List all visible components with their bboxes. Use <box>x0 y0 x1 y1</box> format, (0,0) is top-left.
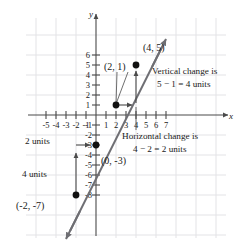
y-tick-label: 6 <box>86 50 90 60</box>
data-point <box>73 192 80 199</box>
x-tick-label: 1 <box>104 120 108 130</box>
x-tick-label: -4 <box>52 120 60 130</box>
y-tick-label: 5 <box>86 60 90 70</box>
x-axis-label: x <box>228 111 233 121</box>
point-label-minus2-minus7: (-2, -7) <box>16 200 44 212</box>
x-tick-label: -5 <box>42 120 49 130</box>
y-tick-label: 1 <box>86 100 90 110</box>
y-tick-label: 3 <box>86 80 90 90</box>
horizontal-change-note-line2: 4 − 2 = 2 units <box>133 144 187 154</box>
y-tick-label: -2 <box>85 130 92 140</box>
x-tick-label: 7 <box>164 120 168 130</box>
x-tick-label: 6 <box>154 120 158 130</box>
y-tick-label: -6 <box>85 170 92 180</box>
x-tick-label: -2 <box>72 120 79 130</box>
y-tick-label: -4 <box>85 150 93 160</box>
y-tick-labels: 1 2 3 4 5 6 -1 -2 -3 -4 -5 -6 -7 -8 <box>85 50 93 200</box>
x-tick-labels: -5 -4 -3 -2 -1 1 2 3 4 5 6 7 <box>42 120 168 130</box>
y-tick-label: -5 <box>85 160 92 170</box>
point-label-4-5: (4, 5) <box>143 42 165 54</box>
x-tick-label: 5 <box>144 120 148 130</box>
vertical-change-note-line2: 5 − 1 = 4 units <box>157 79 211 89</box>
two-units-note: 2 units <box>25 136 50 146</box>
leader-line-point-2-1-b <box>116 72 128 104</box>
data-point <box>133 62 140 69</box>
y-tick-label: 2 <box>86 90 90 100</box>
horizontal-change-note-line1: Horizontal change is <box>122 131 198 141</box>
point-label-0-minus3: (0, -3) <box>101 155 126 167</box>
y-tick-label: -1 <box>85 120 92 130</box>
data-point <box>93 142 100 149</box>
graph-canvas: -5 -4 -3 -2 -1 1 2 3 4 5 6 7 1 2 3 4 5 6… <box>0 0 240 251</box>
x-tick-label: 2 <box>114 120 118 130</box>
point-label-2-1: (2, 1) <box>104 61 126 73</box>
four-units-note: 4 units <box>22 169 47 179</box>
y-axis-label: y <box>88 9 93 19</box>
vertical-change-note-line1: Vertical change is <box>152 66 218 76</box>
x-tick-label: -3 <box>62 120 69 130</box>
coordinate-plane-figure: -5 -4 -3 -2 -1 1 2 3 4 5 6 7 1 2 3 4 5 6… <box>0 0 240 251</box>
data-point <box>113 102 120 109</box>
